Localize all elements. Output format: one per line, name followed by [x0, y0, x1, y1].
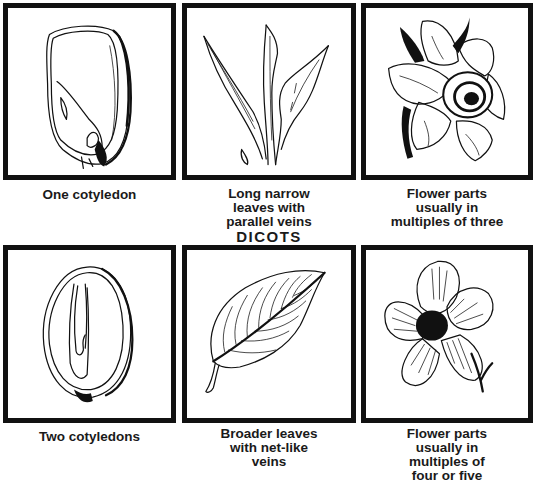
caption-parallel-veins: Long narrow leaves with parallel veins	[182, 187, 356, 229]
caption-line: usually in	[361, 441, 533, 455]
caption-net-veins: Broader leaves with net-like veins	[182, 427, 356, 469]
monocot-seed-icon	[8, 8, 171, 175]
caption-line: One cotyledon	[3, 188, 176, 202]
caption-flower-three: Flower parts usually in multiples of thr…	[361, 187, 533, 229]
heading-dicots: DICOTS	[182, 228, 356, 245]
caption-line: with net-like	[182, 441, 356, 455]
caption-line: multiples of three	[361, 215, 533, 229]
caption-line: Flower parts	[361, 427, 533, 441]
caption-two-cotyledons: Two cotyledons	[3, 430, 176, 444]
panel-two-cotyledons	[3, 245, 176, 423]
dicot-seed-icon	[8, 250, 171, 418]
monocot-leaves-icon	[187, 8, 351, 175]
caption-line: Flower parts	[361, 187, 533, 201]
panel-parallel-veins	[182, 3, 356, 180]
caption-line: Long narrow	[182, 187, 356, 201]
five-petal-flower-icon	[366, 250, 528, 418]
caption-line: leaves with	[182, 201, 356, 215]
panel-net-veins	[182, 245, 356, 423]
caption-line: multiples of	[361, 455, 533, 469]
caption-line: Two cotyledons	[3, 430, 176, 444]
caption-line: Broader leaves	[182, 427, 356, 441]
caption-one-cotyledon: One cotyledon	[3, 188, 176, 202]
caption-line: veins	[182, 455, 356, 469]
daffodil-flower-icon	[366, 8, 528, 175]
caption-flower-four-five: Flower parts usually in multiples of fou…	[361, 427, 533, 483]
caption-line: four or five	[361, 469, 533, 483]
panel-flower-four-five	[361, 245, 533, 423]
panel-flower-three	[361, 3, 533, 180]
caption-line: usually in	[361, 201, 533, 215]
caption-line: parallel veins	[182, 215, 356, 229]
dicot-leaf-icon	[187, 250, 351, 418]
panel-one-cotyledon	[3, 3, 176, 180]
